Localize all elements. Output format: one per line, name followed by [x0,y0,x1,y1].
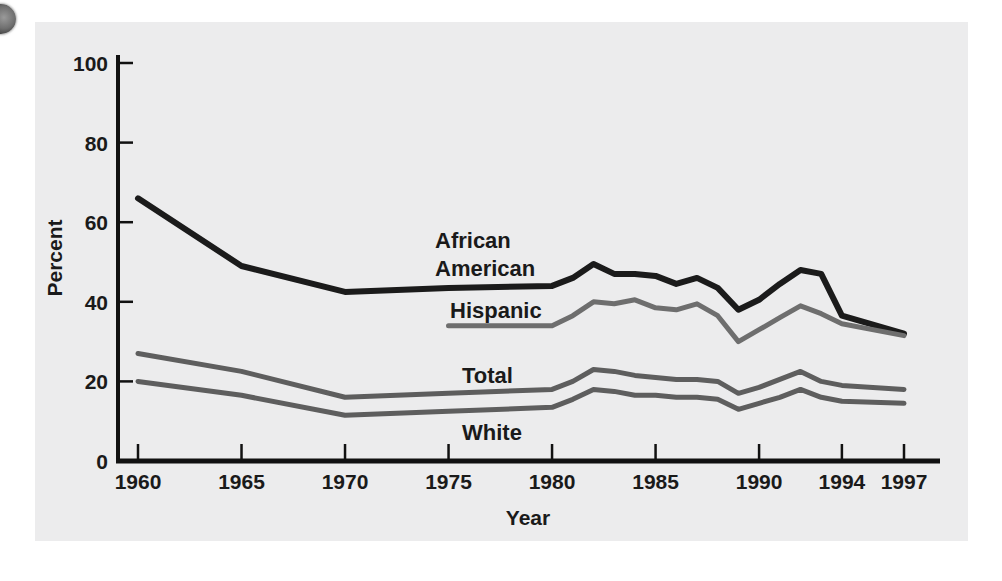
series-label-hispanic: Hispanic [450,298,542,323]
y-axis-title: Percent [43,219,66,296]
series-label-total: Total [462,363,513,388]
figure-container: 020406080100 196019651970197519801985199… [0,0,1002,581]
y-tick-label-20: 20 [85,370,108,393]
line-chart: 020406080100 196019651970197519801985199… [0,0,1002,581]
y-tick-label-40: 40 [85,291,108,314]
x-axis-title: Year [506,506,550,529]
x-tick-label-1997: 1997 [881,470,928,493]
y-tick-label-100: 100 [73,52,108,75]
x-axis-ticks: 196019651970197519801985199019941997 [115,444,928,493]
x-tick-label-1970: 1970 [322,470,369,493]
x-tick-label-1980: 1980 [529,470,576,493]
y-tick-label-60: 60 [85,211,108,234]
x-tick-label-1994: 1994 [819,470,866,493]
series-line-white [138,381,904,415]
x-tick-label-1965: 1965 [218,470,265,493]
x-tick-label-1990: 1990 [736,470,783,493]
series-label-african-american-line2: American [435,256,535,281]
x-tick-label-1975: 1975 [425,470,472,493]
y-tick-label-80: 80 [85,132,108,155]
series-line-total [138,354,904,398]
x-tick-label-1985: 1985 [632,470,679,493]
series-label-white: White [462,420,522,445]
series-label-african-american-line1: African [435,228,511,253]
y-axis-ticks: 020406080100 [73,52,133,473]
y-tick-label-0: 0 [96,450,108,473]
x-tick-label-1960: 1960 [115,470,162,493]
